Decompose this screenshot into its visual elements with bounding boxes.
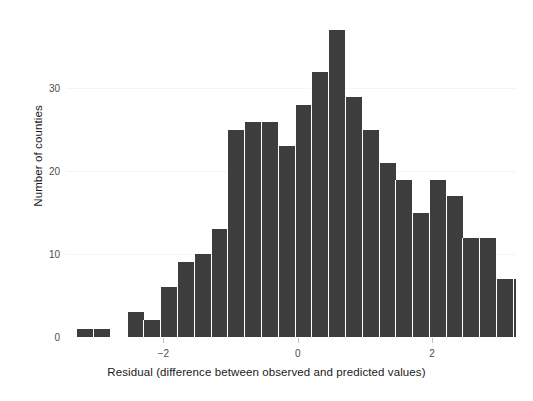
histogram-bars [66, 18, 516, 337]
histogram-bar [160, 287, 177, 337]
histogram-bar [412, 213, 429, 337]
histogram-bar [328, 30, 345, 337]
y-tick-label-10: 10 [34, 249, 64, 260]
histogram-bar [177, 262, 194, 337]
x-tick-mark-0 [163, 338, 164, 343]
histogram-bar [362, 130, 379, 337]
histogram-bar [143, 320, 160, 337]
x-tick-label-0: −2 [158, 348, 169, 359]
histogram-bar [261, 122, 278, 337]
histogram-bar [446, 196, 463, 337]
histogram-bar [244, 122, 261, 337]
x-tick-label-2: 2 [429, 348, 435, 359]
histogram-bar [345, 97, 362, 337]
x-axis-title: Residual (difference between observed an… [0, 366, 533, 378]
histogram-bar [429, 180, 446, 337]
histogram-bar [295, 105, 312, 337]
histogram-bar [462, 238, 479, 337]
histogram-bar [513, 279, 516, 337]
x-tick-mark-2 [432, 338, 433, 343]
y-tick-label-0: 0 [34, 332, 64, 343]
histogram-bar [496, 279, 513, 337]
y-tick-label-20: 20 [34, 166, 64, 177]
histogram-bar [311, 72, 328, 337]
x-tick-mark-1 [298, 338, 299, 343]
histogram-bar [76, 329, 93, 337]
histogram-bar [194, 254, 211, 337]
x-tick-label-1: 0 [295, 348, 301, 359]
histogram-bar [395, 180, 412, 337]
y-tick-label-30: 30 [34, 83, 64, 94]
histogram-bar [479, 238, 496, 337]
histogram-bar [93, 329, 110, 337]
histogram-bar [278, 146, 295, 337]
y-axis-ticks: 0102030 [14, 0, 64, 401]
histogram-bar [379, 163, 396, 337]
histogram-bar [227, 130, 244, 337]
histogram-figure: Number of counties 0102030 −202 Residual… [0, 0, 533, 401]
histogram-bar [211, 229, 228, 337]
histogram-bar [127, 312, 144, 337]
